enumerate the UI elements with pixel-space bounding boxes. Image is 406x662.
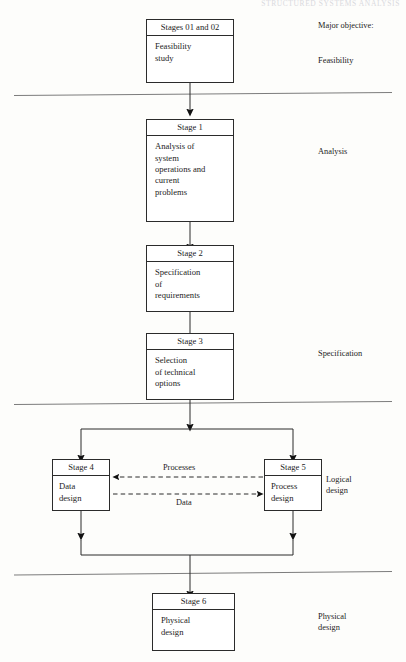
node-title: Stage 2 — [147, 246, 233, 262]
node-stage-2[interactable]: Stage 2 Specification of requirements — [146, 245, 234, 312]
node-title: Stage 6 — [153, 594, 234, 610]
node-body: Specification of requirements — [147, 262, 233, 305]
phase-divider-2 — [14, 402, 392, 405]
node-title: Stage 4 — [53, 460, 109, 476]
right-label-specification: Specification — [318, 348, 362, 359]
dashed-exchange — [113, 477, 263, 494]
connector-layer — [0, 0, 406, 662]
node-title: Stage 3 — [147, 334, 233, 350]
right-label-physical-design: Physical design — [318, 611, 346, 634]
phase-divider-1 — [14, 93, 392, 96]
node-body: Data design — [53, 476, 109, 508]
node-body: Process design — [265, 476, 321, 508]
node-title: Stages 01 and 02 — [147, 20, 233, 36]
diagram-canvas: STRUCTURED SYSTEMS ANALYSIS — [0, 0, 406, 662]
node-stage-1[interactable]: Stage 1 Analysis of system operations an… — [146, 119, 234, 222]
right-label-logical-design: Logical design — [326, 474, 352, 497]
node-stages-01-02[interactable]: Stages 01 and 02 Feasibility study — [146, 19, 234, 83]
node-title: Stage 1 — [147, 120, 233, 136]
node-stage-6[interactable]: Stage 6 Physical design — [152, 593, 235, 651]
node-body: Analysis of system operations and curren… — [147, 136, 233, 202]
node-stage-4[interactable]: Stage 4 Data design — [52, 459, 110, 511]
node-stage-3[interactable]: Stage 3 Selection of technical options — [146, 333, 234, 400]
edge-label-processes: Processes — [163, 463, 195, 472]
node-body: Selection of technical options — [147, 350, 233, 393]
node-body: Physical design — [153, 610, 234, 642]
right-column-heading: Major objective: — [318, 20, 374, 31]
node-title: Stage 5 — [265, 460, 321, 476]
node-body: Feasibility study — [147, 36, 233, 68]
node-stage-5[interactable]: Stage 5 Process design — [264, 459, 322, 511]
right-label-feasibility: Feasibility — [318, 55, 353, 66]
split-branch — [81, 429, 293, 456]
edge-label-data: Data — [176, 498, 192, 507]
right-label-analysis: Analysis — [318, 146, 347, 157]
phase-divider-3 — [14, 572, 392, 576]
join-branch — [81, 511, 293, 555]
